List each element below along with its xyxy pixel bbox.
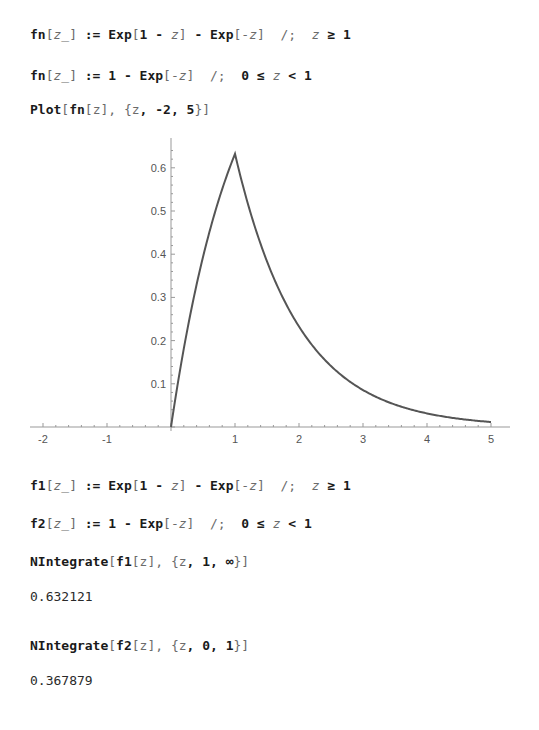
cell-token: , { — [108, 102, 131, 117]
input-cell-def-fn-2[interactable]: fn[z_] := 1 - Exp[-z] /; 0 ≤ z < 1 — [30, 68, 312, 84]
cell-token: z — [249, 27, 257, 42]
x-tick-label: 2 — [296, 433, 302, 445]
x-tick-label: -1 — [102, 433, 112, 445]
cell-token: z — [179, 68, 187, 83]
cell-token: NIntegrate — [30, 638, 108, 653]
cell-token: z — [312, 27, 320, 42]
cell-token: , { — [155, 638, 178, 653]
x-tick-label: 5 — [488, 433, 494, 445]
cell-token: , -2, 5 — [140, 102, 195, 117]
cell-token: z — [132, 102, 140, 117]
cell-token: 0.367879 — [30, 673, 93, 688]
cell-token: [- — [234, 27, 250, 42]
cell-token: := 1 - Exp — [77, 516, 163, 531]
cell-token: ≥ 1 — [320, 478, 351, 493]
cell-token: /; — [265, 27, 312, 42]
cell-token: z_ — [53, 478, 69, 493]
cell-token: z_ — [53, 68, 69, 83]
x-tick-label: 3 — [360, 433, 366, 445]
cell-token: [ — [132, 554, 140, 569]
cell-token: - Exp — [187, 478, 234, 493]
cell-token: f2 — [30, 516, 46, 531]
cell-token: := Exp — [77, 27, 132, 42]
cell-token: [- — [234, 478, 250, 493]
cell-token: f1 — [116, 554, 132, 569]
output-cell-result-f1: 0.632121 — [30, 589, 93, 605]
cell-token: ] — [179, 478, 187, 493]
cell-token: [- — [163, 516, 179, 531]
cell-token: ≥ 1 — [320, 27, 351, 42]
cell-token: f1 — [30, 478, 46, 493]
cell-token: ] — [257, 478, 265, 493]
plot-axes: -2-1123450.10.20.30.40.50.6 — [30, 138, 510, 445]
cell-token: := Exp — [77, 478, 132, 493]
cell-token: 0.632121 — [30, 589, 93, 604]
cell-token: [ — [108, 554, 116, 569]
cell-token: f2 — [116, 638, 132, 653]
plot-curve — [171, 154, 491, 427]
cell-token: }] — [194, 102, 210, 117]
y-tick-label: 0.3 — [151, 291, 166, 303]
cell-token: 1 - — [140, 478, 171, 493]
cell-token: z — [179, 516, 187, 531]
input-cell-plot-cmd[interactable]: Plot[fn[z], {z, -2, 5}] — [30, 102, 210, 118]
cell-token: [ — [132, 478, 140, 493]
cell-token: := 1 - Exp — [77, 68, 163, 83]
cell-token: fn — [30, 68, 46, 83]
cell-token: z — [249, 478, 257, 493]
cell-token: ] — [69, 27, 77, 42]
y-tick-label: 0.4 — [151, 248, 166, 260]
cell-token: < 1 — [280, 68, 311, 83]
cell-token: z — [171, 27, 179, 42]
cell-token: , 1, ∞ — [187, 554, 234, 569]
y-tick-label: 0.1 — [151, 378, 166, 390]
cell-token: , { — [155, 554, 178, 569]
cell-token: 0 ≤ — [241, 516, 272, 531]
cell-token: }] — [234, 638, 250, 653]
output-cell-result-f2: 0.367879 — [30, 673, 93, 689]
cell-token: NIntegrate — [30, 554, 108, 569]
cell-token: [ — [132, 27, 140, 42]
cell-token: ] — [179, 27, 187, 42]
input-cell-def-fn-1[interactable]: fn[z_] := Exp[1 - z] - Exp[-z] /; z ≥ 1 — [30, 27, 351, 43]
cell-token: }] — [234, 554, 250, 569]
input-cell-def-f2[interactable]: f2[z_] := 1 - Exp[-z] /; 0 ≤ z < 1 — [30, 516, 312, 532]
cell-token: ] — [69, 516, 77, 531]
cell-token: [ — [132, 638, 140, 653]
plot-graphic[interactable]: -2-1123450.10.20.30.40.50.6 — [0, 120, 539, 460]
cell-token: , 0, 1 — [187, 638, 234, 653]
y-tick-label: 0.5 — [151, 205, 166, 217]
cell-token: < 1 — [280, 516, 311, 531]
clipped-previous-cell — [30, 0, 350, 2]
cell-token: /; — [194, 68, 241, 83]
cell-token: 0 ≤ — [241, 68, 272, 83]
y-tick-label: 0.2 — [151, 335, 166, 347]
cell-token: - Exp — [187, 27, 234, 42]
cell-token: ] — [69, 478, 77, 493]
input-cell-nintegrate-f1[interactable]: NIntegrate[f1[z], {z, 1, ∞}] — [30, 554, 249, 570]
input-cell-def-f1[interactable]: f1[z_] := Exp[1 - z] - Exp[-z] /; z ≥ 1 — [30, 478, 351, 494]
cell-token: /; — [194, 516, 241, 531]
cell-token: z — [179, 554, 187, 569]
cell-token: 1 - — [140, 27, 171, 42]
cell-token: [ — [61, 102, 69, 117]
cell-token: [ — [85, 102, 93, 117]
cell-token: /; — [265, 478, 312, 493]
cell-token: z — [312, 478, 320, 493]
cell-token: Plot — [30, 102, 61, 117]
y-tick-label: 0.6 — [151, 162, 166, 174]
x-tick-label: -2 — [38, 433, 48, 445]
cell-token: fn — [30, 27, 46, 42]
cell-token: [- — [163, 68, 179, 83]
x-tick-label: 1 — [232, 433, 238, 445]
x-tick-label: 4 — [424, 433, 430, 445]
input-cell-nintegrate-f2[interactable]: NIntegrate[f2[z], {z, 0, 1}] — [30, 638, 249, 654]
cell-token: z — [171, 478, 179, 493]
cell-token: fn — [69, 102, 85, 117]
cell-token: ] — [257, 27, 265, 42]
cell-token: z — [179, 638, 187, 653]
cell-token: ] — [69, 68, 77, 83]
cell-token: z_ — [53, 516, 69, 531]
cell-token: [ — [108, 638, 116, 653]
cell-token: z_ — [53, 27, 69, 42]
